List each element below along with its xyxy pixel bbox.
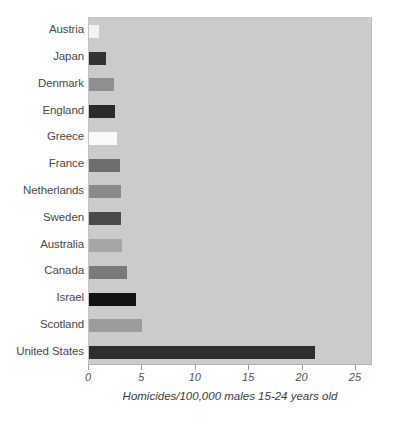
bar: [89, 293, 136, 306]
x-axis-title: Homicides/100,000 males 15-24 years old: [88, 390, 372, 402]
y-axis-tick-label: Netherlands: [2, 184, 84, 196]
bar-row: [89, 72, 371, 99]
bar: [89, 132, 117, 145]
y-axis-tick-label: Canada: [2, 264, 84, 276]
bar: [89, 212, 121, 225]
y-axis-tick-label: France: [2, 157, 84, 169]
x-axis-tick-mark: [248, 365, 249, 370]
bar-row: [89, 18, 371, 45]
x-axis-tick-mark: [195, 365, 196, 370]
bar: [89, 25, 99, 38]
bar-row: [89, 98, 371, 125]
x-axis-tick-mark: [355, 365, 356, 370]
x-axis: 0510152025: [88, 365, 372, 389]
y-axis-tick-label: England: [2, 104, 84, 116]
bar-row: [89, 179, 371, 206]
x-axis-tick-label: 10: [189, 371, 201, 383]
bar: [89, 78, 114, 91]
x-axis-tick-mark: [141, 365, 142, 370]
bar: [89, 159, 120, 172]
bar: [89, 346, 315, 359]
bar: [89, 185, 121, 198]
y-axis-tick-label: Israel: [2, 291, 84, 303]
y-axis-tick-label: Austria: [2, 23, 84, 35]
y-axis-tick-label: Greece: [2, 130, 84, 142]
y-axis-tick-label: Australia: [2, 238, 84, 250]
y-axis-tick-label: Japan: [2, 50, 84, 62]
bar: [89, 239, 122, 252]
bar: [89, 266, 127, 279]
x-axis-tick-label: 25: [349, 371, 361, 383]
y-axis-category-labels: AustriaJapanDenmarkEnglandGreeceFranceNe…: [0, 17, 84, 365]
x-axis-tick-label: 20: [295, 371, 307, 383]
x-axis-tick-label: 15: [242, 371, 254, 383]
x-axis-tick-mark: [88, 365, 89, 370]
x-axis-tick-mark: [302, 365, 303, 370]
bar-row: [89, 205, 371, 232]
plot-area: [88, 17, 372, 365]
bar-row: [89, 312, 371, 339]
x-axis-tick-label: 0: [85, 371, 91, 383]
bar-row: [89, 286, 371, 313]
bar: [89, 319, 142, 332]
y-axis-tick-label: United States: [2, 345, 84, 357]
y-axis-tick-label: Sweden: [2, 211, 84, 223]
bar: [89, 52, 106, 65]
y-axis-tick-label: Denmark: [2, 77, 84, 89]
bar-row: [89, 152, 371, 179]
bar-row: [89, 125, 371, 152]
y-axis-tick-label: Scotland: [2, 318, 84, 330]
bar-row: [89, 259, 371, 286]
x-axis-tick-label: 5: [138, 371, 144, 383]
bar: [89, 105, 115, 118]
bar-row: [89, 45, 371, 72]
bar-row: [89, 232, 371, 259]
bar-row: [89, 339, 371, 366]
bar-chart-figure: AustriaJapanDenmarkEnglandGreeceFranceNe…: [0, 0, 397, 421]
